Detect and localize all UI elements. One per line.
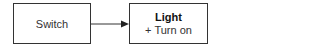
light-title: Light [155, 11, 182, 24]
arrowhead-icon [121, 21, 129, 28]
light-node: Light + Turn on [129, 3, 208, 44]
light-method-turn-on: + Turn on [145, 24, 192, 37]
